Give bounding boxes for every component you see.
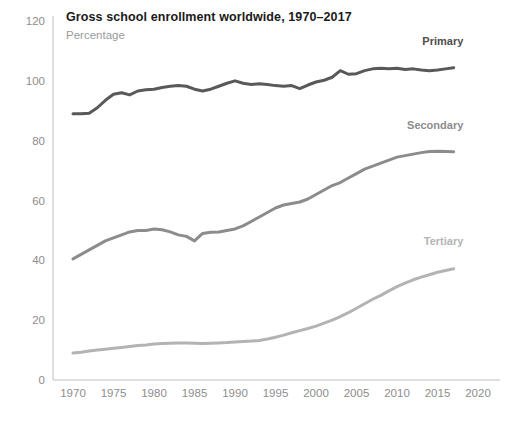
y-axis-tick-labels: 020406080100120	[26, 15, 45, 386]
x-tick-2010: 2010	[384, 387, 410, 399]
series-label-tertiary: Tertiary	[424, 235, 464, 247]
x-tick-1990: 1990	[222, 387, 248, 399]
y-tick-80: 80	[32, 135, 45, 147]
series-line-tertiary	[73, 269, 454, 353]
y-tick-20: 20	[32, 314, 45, 326]
x-tick-2000: 2000	[303, 387, 329, 399]
x-axis-tick-labels: 1970197519801985199019952000200520102015…	[60, 387, 491, 399]
x-tick-2020: 2020	[465, 387, 491, 399]
x-tick-2005: 2005	[344, 387, 370, 399]
y-tick-0: 0	[39, 374, 45, 386]
series-line-secondary	[73, 151, 454, 259]
series-inline-labels: PrimarySecondaryTertiary	[407, 35, 464, 247]
x-tick-1980: 1980	[141, 387, 167, 399]
x-tick-1975: 1975	[101, 387, 127, 399]
data-series-group	[73, 68, 454, 353]
y-tick-40: 40	[32, 254, 45, 266]
x-tick-1995: 1995	[263, 387, 289, 399]
y-tick-120: 120	[26, 15, 45, 27]
series-label-secondary: Secondary	[407, 119, 464, 131]
series-label-primary: Primary	[422, 35, 464, 47]
y-tick-100: 100	[26, 75, 45, 87]
x-tick-1985: 1985	[182, 387, 208, 399]
chart-plot-area: 020406080100120 197019751980198519901995…	[0, 0, 530, 423]
series-line-primary	[73, 68, 454, 114]
chart-container: Gross school enrollment worldwide, 1970–…	[0, 0, 530, 423]
x-tick-2015: 2015	[425, 387, 451, 399]
y-tick-60: 60	[32, 195, 45, 207]
x-tick-1970: 1970	[60, 387, 86, 399]
